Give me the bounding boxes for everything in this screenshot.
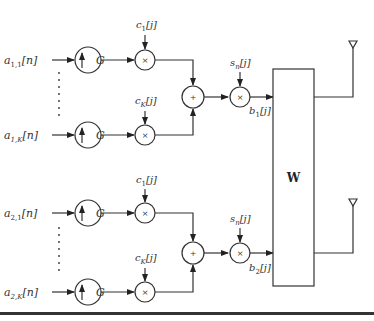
multiply-symbol: × [142,56,149,65]
input-label: a2,K[n] [4,286,39,301]
code-label: cK[j] [135,95,157,109]
multiply-symbol: × [142,288,149,297]
code-label: cK[j] [135,252,157,266]
wire [155,265,193,292]
code-label: c1[j] [136,174,157,188]
ellipsis-dots [58,227,60,271]
upsampler-label: G [96,54,105,67]
upsampler-label: G [96,207,105,220]
diagram-canvas: W a1,1[n] a1,K[n] G G × × + × c1[j] cK[j… [0,0,374,321]
scrambler-label: sn[j] [230,213,251,227]
upsampler-label: G [96,129,105,142]
input-label: a1,K[n] [4,129,39,144]
precoder-label: W [286,171,301,185]
block-diagram: W a1,1[n] a1,K[n] G G × × + × c1[j] cK[j… [0,0,374,321]
output-label: b2[j] [249,262,271,276]
wire [155,213,193,241]
bottom-rule-divider [0,312,374,315]
code-label: c1[j] [136,19,157,33]
upsampler-label: G [96,286,105,299]
input-label: a1,1[n] [4,54,38,69]
ellipsis-dots [58,72,60,116]
wire [155,60,193,85]
add-symbol: + [190,249,197,258]
antenna-icon [349,41,357,48]
antenna-icon [349,199,357,206]
multiply-symbol: × [142,131,149,140]
antenna-feed [314,48,353,97]
multiply-symbol: × [142,209,149,218]
multiply-symbol: × [237,249,244,258]
scrambler-label: sn[j] [230,57,251,71]
add-symbol: + [190,93,197,102]
wire [155,109,193,135]
multiply-symbol: × [237,93,244,102]
antenna-feed [314,206,353,253]
output-label: b1[j] [249,105,271,119]
input-label: a2,1[n] [4,207,38,222]
